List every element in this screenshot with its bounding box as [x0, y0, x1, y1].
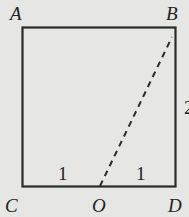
vertex-label-a: A	[10, 4, 22, 23]
segment-label-od: 1	[136, 164, 146, 183]
segment-label-co: 1	[58, 164, 68, 183]
vertex-label-d: D	[168, 196, 182, 215]
diagram-canvas	[0, 0, 189, 217]
vertex-label-b: B	[166, 4, 178, 23]
vertex-label-c: C	[5, 196, 18, 215]
segment-label-bd: 2	[184, 98, 189, 117]
rectangle-acdb	[23, 28, 176, 187]
vertex-label-o: O	[92, 196, 106, 215]
geometry-diagram: A B C O D 1 1 2	[0, 0, 189, 217]
